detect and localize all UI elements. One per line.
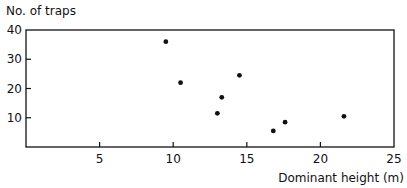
- data-point: [283, 120, 288, 125]
- y-tick-label: 20: [7, 82, 22, 96]
- y-tick-label: 40: [7, 23, 22, 37]
- data-points: [163, 39, 346, 133]
- data-point: [163, 39, 168, 44]
- data-point: [215, 111, 220, 116]
- x-tick-label: 15: [239, 152, 254, 166]
- scatter-chart: 51015202510203040 No. of traps Dominant …: [0, 0, 407, 188]
- x-axis-label: Dominant height (m): [278, 171, 404, 185]
- y-tick-label: 10: [7, 111, 22, 125]
- data-point: [271, 129, 276, 134]
- plot-frame: [26, 30, 394, 147]
- y-tick-label: 30: [7, 52, 22, 66]
- data-point: [178, 80, 183, 85]
- axes: 51015202510203040: [7, 23, 402, 166]
- y-axis-label: No. of traps: [6, 4, 76, 18]
- x-tick-label: 5: [96, 152, 104, 166]
- data-point: [342, 114, 347, 119]
- data-point: [237, 73, 242, 78]
- x-tick-label: 20: [313, 152, 328, 166]
- x-tick-label: 25: [386, 152, 401, 166]
- x-tick-label: 10: [166, 152, 181, 166]
- data-point: [219, 95, 224, 100]
